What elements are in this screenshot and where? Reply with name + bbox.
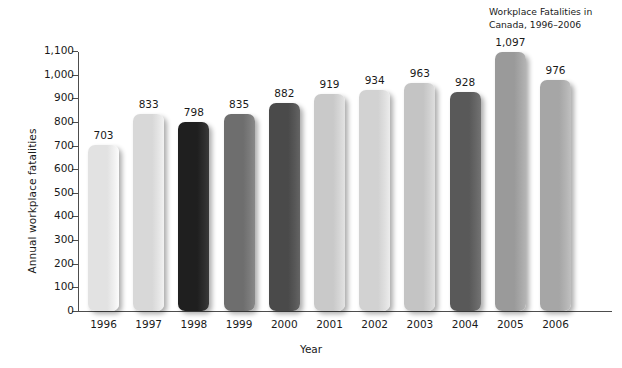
bar-value-label: 1,097: [495, 36, 525, 48]
bar-2006: 976: [540, 80, 571, 311]
y-axis-title: Annual workplace fatalities: [26, 91, 38, 311]
y-tick-label: 300: [54, 233, 74, 245]
y-tick-label: 200: [54, 257, 74, 269]
y-tick-label: 900: [54, 91, 74, 103]
plot-area: 01002003004005006007008009001,0001,100 7…: [78, 50, 613, 312]
bar-value-label: 934: [365, 74, 385, 86]
y-tick-label: 700: [54, 139, 74, 151]
bar-value-label: 703: [93, 129, 113, 141]
y-tick-label: 1,000: [44, 68, 74, 80]
bar-2005: 1,097: [495, 52, 526, 311]
y-tick-label: 0: [67, 304, 74, 316]
chart-title: Workplace Fatalities in Canada, 1996–200…: [489, 5, 619, 31]
x-axis-title: Year: [0, 343, 622, 355]
bar-value-label: 976: [545, 64, 565, 76]
bar-1996: 703: [88, 145, 119, 311]
bar-value-label: 835: [229, 98, 249, 110]
bar-2000: 882: [269, 103, 300, 311]
bar-2004: 928: [450, 92, 481, 311]
bar-chart-figure: Workplace Fatalities in Canada, 1996–200…: [0, 0, 622, 368]
bar-value-label: 798: [184, 106, 204, 118]
y-tick-label: 100: [54, 280, 74, 292]
bar-1997: 833: [133, 114, 164, 311]
y-tick-label: 800: [54, 115, 74, 127]
bar-2003: 963: [404, 83, 435, 311]
y-tick-label: 1,100: [44, 44, 74, 56]
bar-value-label: 882: [274, 87, 294, 99]
bar-value-label: 833: [139, 98, 159, 110]
y-tick-label: 600: [54, 162, 74, 174]
bar-value-label: 963: [410, 67, 430, 79]
x-tick-label-2006: 2006: [526, 318, 586, 330]
y-axis-line: [78, 52, 79, 312]
y-tick-label: 400: [54, 209, 74, 221]
bar-2002: 934: [359, 90, 390, 311]
bar-value-label: 919: [319, 78, 339, 90]
bar-1999: 835: [224, 114, 255, 311]
page-edge: [0, 364, 622, 368]
bar-2001: 919: [314, 94, 345, 311]
y-tick-label: 500: [54, 186, 74, 198]
bar-value-label: 928: [455, 76, 475, 88]
bar-1998: 798: [178, 122, 209, 311]
x-axis-line: [78, 311, 612, 312]
